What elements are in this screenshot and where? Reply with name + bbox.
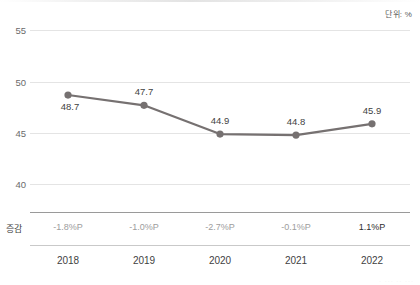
chart-container: 단위: % 55504540 48.747.744.944.845.9 증감 -…: [0, 0, 420, 285]
x-axis-label: 2018: [57, 255, 79, 266]
data-point-label: 44.9: [211, 115, 230, 126]
data-point-marker: [140, 102, 147, 109]
x-axis-label: 2020: [209, 255, 231, 266]
data-point-label: 44.8: [287, 116, 306, 127]
data-point-marker: [292, 132, 299, 139]
change-cell: 1.1%P: [359, 222, 386, 232]
data-point-marker: [216, 130, 223, 137]
change-cell: -0.1%P: [281, 222, 311, 232]
x-axis-label: 2021: [285, 255, 307, 266]
plot-area: [30, 20, 410, 205]
y-axis-tick-label: 40: [0, 179, 26, 190]
y-axis-tick-label: 55: [0, 25, 26, 36]
unit-caption: 단위: %: [385, 8, 412, 19]
data-point-marker: [64, 91, 71, 98]
data-point-marker: [368, 120, 375, 127]
y-axis-tick-label: 45: [0, 128, 26, 139]
change-row-label: 증감: [6, 222, 22, 235]
change-cell: -1.8%P: [53, 222, 83, 232]
change-cell: -1.0%P: [129, 222, 159, 232]
footer-ghost-text: · ··· ·· ···: [379, 278, 414, 284]
data-point-label: 47.7: [135, 86, 154, 97]
data-point-label: 45.9: [363, 105, 382, 116]
y-axis-tick-label: 50: [0, 76, 26, 87]
x-axis-label: 2022: [361, 255, 383, 266]
data-point-label: 48.7: [61, 101, 80, 112]
change-cell: -2.7%P: [205, 222, 235, 232]
top-edge-divider: [0, 0, 420, 2]
line-series-svg: [30, 20, 410, 205]
x-axis-label: 2019: [133, 255, 155, 266]
